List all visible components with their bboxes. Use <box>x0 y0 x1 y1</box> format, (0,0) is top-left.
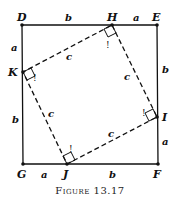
label-I: I <box>161 111 168 124</box>
label-K: K <box>7 66 18 79</box>
marker-text-I: ! <box>142 108 146 118</box>
marker-text-H: ! <box>106 40 110 50</box>
figure-caption: Figure 13.17 <box>55 185 124 196</box>
right-angle-marker-H <box>104 25 116 37</box>
length-JK: c <box>48 108 54 119</box>
vertex-G <box>21 162 25 166</box>
length-IF: a <box>162 136 168 147</box>
length-GK: b <box>12 114 19 125</box>
marker-text-J: ! <box>69 144 73 154</box>
label-G: G <box>17 168 26 181</box>
figure-diagram: ! ! ! ! D H E K I G J F b a b a b a b a … <box>0 0 179 199</box>
length-HI: c <box>124 71 130 82</box>
length-IJ: c <box>108 128 114 139</box>
length-DH: b <box>65 12 72 23</box>
length-FJ: b <box>109 169 116 180</box>
label-E: E <box>151 11 161 24</box>
right-angle-marker-I <box>145 109 157 121</box>
marker-text-K: ! <box>33 73 37 83</box>
label-F: F <box>152 168 162 181</box>
vertex-F <box>156 162 160 166</box>
length-EI: b <box>162 64 169 75</box>
inner-square-HIJK <box>23 25 157 164</box>
length-KD: a <box>11 42 17 53</box>
length-KH: c <box>66 51 72 62</box>
length-JG: a <box>41 169 47 180</box>
outer-square-DEFG <box>22 25 158 164</box>
label-D: D <box>16 11 27 24</box>
label-H: H <box>106 11 118 24</box>
label-J: J <box>61 168 69 181</box>
length-HE: a <box>133 12 139 23</box>
